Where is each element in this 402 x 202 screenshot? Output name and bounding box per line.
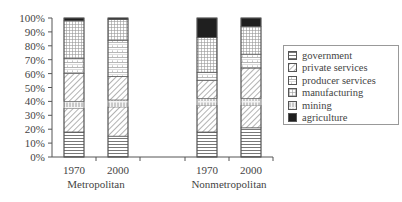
x-label-metro-2000: 2000 — [107, 164, 130, 176]
bar-segment-agri — [64, 18, 84, 21]
legend-label: producer services — [302, 75, 376, 86]
x-label-nonmetro-1970: 1970 — [196, 164, 219, 176]
dense-grid-swatch-icon — [288, 88, 297, 97]
legend-label: government — [302, 50, 352, 61]
y-tick-label: 30% — [25, 109, 45, 121]
legend-label: private services — [302, 62, 368, 73]
bar-segment-prod — [241, 54, 261, 68]
y-tick-label: 70% — [25, 54, 45, 66]
bar-segment-gov — [64, 132, 84, 157]
x-label-metro-1970: 1970 — [63, 164, 86, 176]
y-tick-label: 90% — [25, 26, 45, 38]
bar-nonmetropolitan-2000 — [241, 18, 261, 157]
group-label-nonmetropolitan: Nonmetropolitan — [191, 178, 267, 190]
legend-item-manufacturing: manufacturing — [288, 87, 394, 100]
bar-metropolitan-2000 — [108, 18, 128, 157]
bar-segment-manu — [197, 37, 217, 72]
legend-item-government: government — [288, 49, 394, 62]
y-tick-label: 10% — [25, 137, 45, 149]
bar-nonmetropolitan-1970 — [197, 18, 217, 157]
bar-segment-priv — [241, 68, 261, 99]
diagonal-hatch-swatch-icon — [288, 63, 297, 72]
bar-segment-manu — [241, 26, 261, 54]
y-tick-label: 0% — [30, 151, 45, 163]
bar-segment-prod — [108, 40, 128, 76]
bar-segment-gov — [197, 132, 217, 157]
bar-segment-min — [108, 100, 128, 107]
bar-segment-min — [241, 99, 261, 106]
legend-label: mining — [302, 100, 332, 111]
solid-black-swatch-icon — [288, 113, 297, 122]
legend-item-mining: mining — [288, 99, 394, 112]
chart-legend: government private services producer ser… — [283, 45, 399, 125]
bar-segment-priv — [64, 108, 84, 132]
horizontal-lines-swatch-icon — [288, 51, 297, 60]
bar-segment-priv — [197, 81, 217, 99]
x-label-nonmetro-2000: 2000 — [240, 164, 263, 176]
y-tick-label: 60% — [25, 68, 45, 80]
y-tick-label: 80% — [25, 40, 45, 52]
y-tick-label: 100% — [19, 12, 45, 24]
bar-segment-min — [64, 101, 84, 108]
bar-segment-priv — [64, 74, 84, 102]
bar-metropolitan-1970 — [64, 18, 84, 157]
bar-segment-prod — [64, 58, 84, 73]
bar-segment-priv — [197, 106, 217, 132]
bars — [64, 18, 261, 157]
legend-item-private-services: private services — [288, 62, 394, 75]
group-label-metropolitan: Metropolitan — [67, 178, 125, 190]
bar-segment-agri — [197, 18, 217, 37]
y-axis-ticks: 0%10%20%30%40%50%60%70%80%90%100% — [19, 12, 52, 163]
legend-label: manufacturing — [302, 87, 363, 98]
bar-segment-manu — [64, 21, 84, 59]
bar-segment-gov — [108, 136, 128, 157]
bar-segment-gov — [241, 128, 261, 157]
bar-segment-manu — [108, 19, 128, 40]
bar-segment-prod — [197, 72, 217, 80]
vertical-ticks-swatch-icon — [288, 101, 297, 110]
cross-hatch-swatch-icon — [288, 76, 297, 85]
legend-item-producer-services: producer services — [288, 74, 394, 87]
bar-segment-min — [197, 99, 217, 106]
bar-segment-priv — [108, 107, 128, 136]
bar-segment-priv — [241, 106, 261, 128]
bar-segment-priv — [108, 76, 128, 100]
bar-segment-agri — [241, 18, 261, 26]
y-tick-label: 40% — [25, 95, 45, 107]
y-tick-label: 50% — [25, 82, 45, 94]
legend-item-agriculture: agriculture — [288, 112, 394, 125]
y-tick-label: 20% — [25, 123, 45, 135]
legend-label: agriculture — [302, 112, 347, 123]
